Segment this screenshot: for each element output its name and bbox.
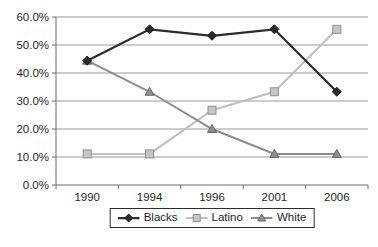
svg-text:40.0%: 40.0%: [16, 67, 49, 79]
svg-text:20.0%: 20.0%: [16, 123, 49, 135]
svg-text:10.0%: 10.0%: [16, 151, 49, 163]
legend-item-white: White: [251, 212, 306, 224]
legend-marker-white-icon: [251, 213, 273, 223]
svg-text:1994: 1994: [137, 191, 163, 203]
y-tick-labels: 0.0%10.0%20.0%30.0%40.0%50.0%60.0%: [16, 11, 49, 191]
svg-text:1996: 1996: [199, 191, 225, 203]
svg-text:50.0%: 50.0%: [16, 39, 49, 51]
legend-label-white: White: [277, 212, 306, 224]
svg-text:1990: 1990: [74, 191, 100, 203]
chart-legend: Blacks Latino White: [110, 208, 315, 228]
legend-label-blacks: Blacks: [144, 212, 178, 224]
legend-label-latino: Latino: [212, 212, 243, 224]
legend-marker-blacks-icon: [118, 213, 140, 223]
series-blacks: [83, 25, 342, 96]
svg-text:60.0%: 60.0%: [16, 11, 49, 23]
svg-text:2001: 2001: [262, 191, 288, 203]
legend-item-blacks: Blacks: [118, 212, 178, 224]
chart-page: 0.0%10.0%20.0%30.0%40.0%50.0%60.0%199019…: [0, 0, 378, 247]
x-tick-labels: 19901994199620012006: [74, 191, 349, 203]
svg-text:0.0%: 0.0%: [23, 179, 49, 191]
svg-text:30.0%: 30.0%: [16, 95, 49, 107]
svg-text:2006: 2006: [324, 191, 350, 203]
axes: [52, 17, 368, 189]
legend-marker-latino-icon: [186, 213, 208, 223]
legend-item-latino: Latino: [186, 212, 243, 224]
